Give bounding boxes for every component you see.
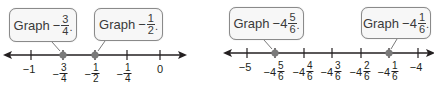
period: . [297,19,300,31]
denominator: 4 [60,74,68,84]
tick-label-neg-5: −5 [239,61,252,73]
denominator: 2 [147,25,155,36]
right-number-line [223,39,434,58]
fraction: 56 [277,61,285,82]
minus-sign: − [117,68,123,80]
whole-number: 4 [299,66,305,78]
fraction: 36 [334,61,342,82]
whole-number: 4 [327,66,333,78]
minus-sign: − [138,17,146,32]
whole-number: 1 [29,63,35,75]
callout-word: Graph [363,16,399,31]
period: . [155,20,158,32]
callout-word: Graph [14,18,50,33]
callout-word: Graph [99,17,135,32]
denominator: 6 [306,72,314,82]
denominator: 6 [334,72,342,82]
whole-number: 4 [356,66,362,78]
whole-number: 4 [280,16,287,31]
fraction: 16 [391,61,399,82]
fraction: 16 [418,12,426,35]
tick-label-neg-1-4: −14 [117,63,132,84]
minus-sign: − [53,18,61,33]
minus-sign: − [85,68,91,80]
period: . [426,18,429,30]
callout-graph-neg-four-one-sixth: Graph − 4 16 . [361,7,431,39]
whole-number: 5 [245,61,251,73]
denominator: 2 [92,74,100,84]
fraction: 56 [288,12,296,35]
whole-number: 4 [384,66,390,78]
tick-label-neg-4-5-6: −456 [263,61,284,82]
whole-number: 4 [410,16,417,31]
denominator: 6 [418,24,426,35]
minus-sign: − [402,16,410,31]
tick-label-neg-4-1-6: −416 [377,61,398,82]
fraction: 12 [92,63,100,84]
point-neg-one-half [91,51,98,58]
callout-word: Graph [233,16,269,31]
denominator: 6 [288,24,296,35]
whole-number: 4 [416,61,422,73]
whole-number: 4 [270,66,276,78]
numerator: 3 [61,14,69,26]
period: . [69,21,72,33]
denominator: 6 [277,72,285,82]
tick-label-neg-1: −1 [23,63,36,75]
minus-sign: − [273,16,281,31]
tick-label-neg-4-4-6: −446 [292,61,313,82]
denominator: 6 [363,72,371,82]
tick-label-neg-4-2-6: −426 [349,61,370,82]
fraction: 46 [306,61,314,82]
denominator: 4 [61,26,69,37]
whole-number: 0 [157,63,163,75]
tick-label-neg-3-4: −34 [53,63,68,84]
callout-graph-neg-one-half: Graph − 12 . [94,8,163,41]
tick-label-neg-4: −4 [410,61,423,73]
tick-label-0: 0 [157,63,163,75]
tick-label-neg-4-3-6: −436 [320,61,341,82]
fraction: 26 [363,61,371,82]
callout-graph-neg-four-five-sixths: Graph − 4 56 . [229,7,304,40]
minus-sign: − [53,68,59,80]
callout-graph-neg-three-fourths: Graph − 34 . [9,8,77,42]
point-neg-three-fourths [59,51,66,58]
tick-label-neg-1-2: −12 [85,63,100,84]
left-number-line [3,41,187,60]
fraction: 34 [61,14,69,37]
point-neg-four-one-sixth [385,49,392,56]
denominator: 4 [124,74,132,84]
fraction: 12 [147,13,155,36]
fraction: 34 [60,63,68,84]
numerator: 1 [418,12,426,24]
fraction: 14 [124,63,132,84]
denominator: 6 [391,72,399,82]
point-neg-four-five-sixths [271,49,278,56]
